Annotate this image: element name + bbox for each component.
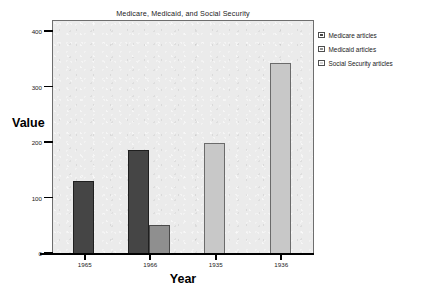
y-axis-tick-label: 0	[16, 250, 42, 257]
bars-layer	[53, 21, 314, 254]
x-axis-tick-label: 1935	[194, 261, 238, 268]
legend-label: Social Security articles	[329, 60, 393, 67]
y-axis-title: Value	[12, 116, 45, 130]
y-axis-tick-label: 100	[16, 194, 42, 201]
chart-legend: Medicare articlesMedicaid articlesSocial…	[318, 29, 430, 71]
y-axis-tick	[44, 86, 53, 88]
legend-swatch-icon	[318, 32, 325, 39]
bar	[149, 225, 170, 254]
legend-item: Social Security articles	[318, 57, 430, 69]
x-axis-baseline	[40, 253, 314, 255]
legend-item: Medicare articles	[318, 29, 430, 41]
legend-item: Medicaid articles	[318, 43, 430, 55]
x-axis-title: Year	[0, 272, 366, 286]
bar	[204, 143, 225, 254]
legend-swatch-icon	[318, 46, 325, 53]
y-axis-tick-label: 300	[16, 83, 42, 90]
y-axis-tick	[44, 30, 53, 32]
y-axis-tick	[44, 197, 53, 199]
y-axis-tick-label: 400	[16, 28, 42, 35]
legend-swatch-icon	[318, 60, 325, 67]
bar-chart: Medicare, Medicaid, and Social Security …	[0, 0, 431, 298]
legend-label: Medicaid articles	[329, 46, 377, 53]
y-axis-tick	[44, 141, 53, 143]
x-axis-tick-label: 1936	[259, 261, 303, 268]
x-axis-tick	[280, 253, 282, 260]
x-axis-tick	[149, 253, 151, 260]
bar	[128, 150, 149, 254]
plot-area	[52, 20, 314, 254]
x-axis-tick	[84, 253, 86, 260]
legend-label: Medicare articles	[329, 32, 377, 39]
x-axis-tick-label: 1966	[128, 261, 172, 268]
y-axis-tick-label: 200	[16, 139, 42, 146]
bar	[270, 63, 291, 254]
chart-title: Medicare, Medicaid, and Social Security	[52, 9, 314, 18]
x-axis-tick	[215, 253, 217, 260]
x-axis-tick-label: 1965	[63, 261, 107, 268]
bar	[73, 181, 94, 254]
